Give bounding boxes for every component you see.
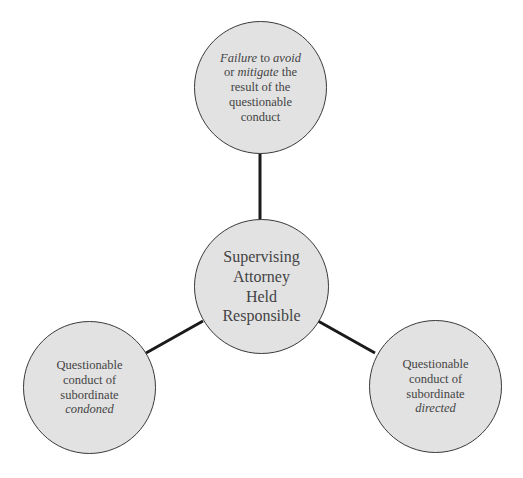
label-line: questionable <box>229 95 292 109</box>
label-line: subordinate <box>406 387 464 401</box>
node-label: Failure to avoid or mitigate the result … <box>220 51 301 125</box>
label-line: conduct <box>241 110 281 124</box>
label-line: conduct of <box>409 372 462 386</box>
label-line: Held <box>246 288 277 305</box>
node-supervising-attorney-held-responsible: Supervising Attorney Held Responsible <box>194 219 329 354</box>
node-failure-to-avoid-or-mitigate: Failure to avoid or mitigate the result … <box>194 21 327 154</box>
label-line: Responsible <box>222 307 300 324</box>
node-conduct-directed: Questionable conduct of subordinate dire… <box>369 320 502 453</box>
label-line: conduct of <box>63 373 116 387</box>
label-line: result of the <box>231 80 291 94</box>
node-label: Questionable conduct of subordinate cond… <box>57 358 123 417</box>
node-label: Questionable conduct of subordinate dire… <box>403 357 469 416</box>
label-line: directed <box>415 401 456 415</box>
label-line: subordinate <box>60 388 118 402</box>
label-line: condoned <box>65 402 114 416</box>
label-line: or mitigate the <box>224 65 297 79</box>
node-conduct-condoned: Questionable conduct of subordinate cond… <box>23 321 156 454</box>
label-line: Failure to avoid <box>220 51 301 65</box>
connector-center-to-bottom-left <box>146 321 203 353</box>
node-label: Supervising Attorney Held Responsible <box>222 247 300 325</box>
connector-center-to-bottom-right <box>318 321 375 353</box>
label-line: Supervising <box>223 248 299 265</box>
label-line: Questionable <box>57 358 123 372</box>
label-line: Questionable <box>403 357 469 371</box>
label-line: Attorney <box>233 268 290 285</box>
